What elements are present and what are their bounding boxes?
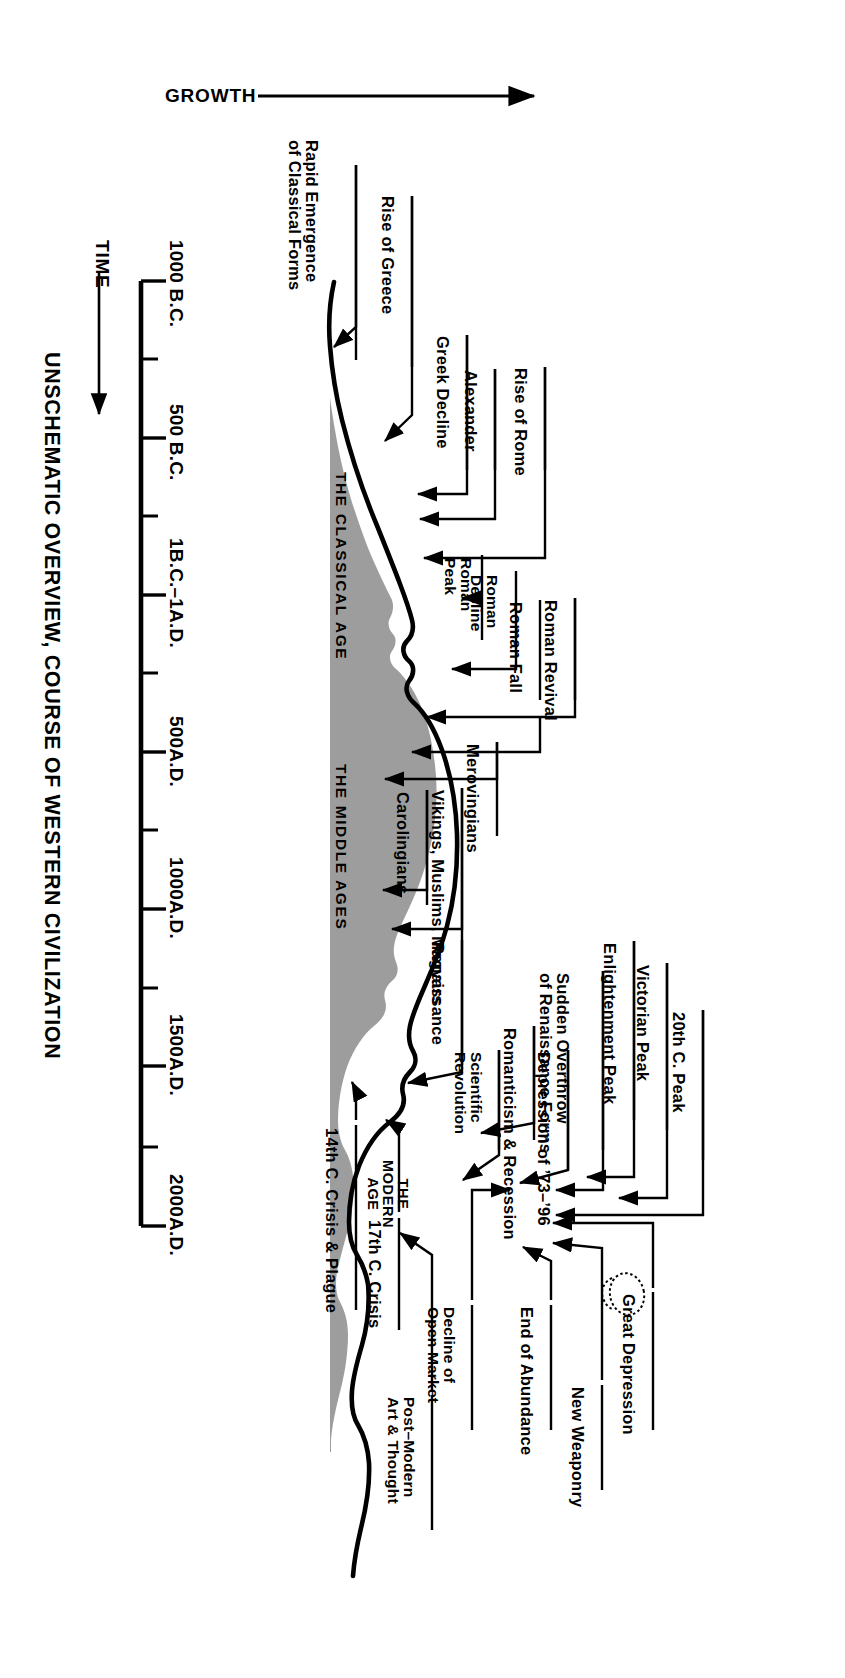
time-axis-label: TIME: [93, 240, 112, 289]
annotation-rise-of-rome: Rise of Rome: [512, 368, 529, 476]
era-label-classical-age: THE CLASSICAL AGE: [333, 472, 349, 660]
axis-tick-label-2000ad: 2000A.D.: [167, 1174, 186, 1256]
annotation-roman-revival: Roman Revival: [542, 600, 559, 721]
era-label-middle-ages: THE MIDDLE AGES: [333, 764, 349, 930]
annotation-end-of-abundance: End of Abundance: [518, 1307, 535, 1455]
annotation-great-depression: Great Depression: [620, 1294, 637, 1435]
annotation-merovingians: Merovingians: [464, 744, 481, 853]
annotation-rapid-emergence: Rapid Emergence of Classical Forms: [286, 140, 320, 290]
annotation-romanticism-recession: Romanticism & Recession: [501, 1028, 518, 1240]
growth-axis-label: GROWTH: [165, 86, 256, 105]
axis-tick-label-500ad: 500A.D.: [167, 716, 186, 787]
annotation-20th-c-peak: 20th C. Peak: [670, 1012, 687, 1113]
annotation-roman-decline: Roman Decline: [468, 575, 500, 632]
annotation-sudden-overthrow: Sudden Overthrow of Renaissance Forms: [537, 973, 571, 1153]
annotation-alexander: Alexander: [462, 370, 479, 452]
annotation-decline-of-open-market: Decline of Open Market: [425, 1307, 457, 1403]
annotation-carolingians: Carolingians: [394, 792, 411, 894]
axis-tick-label-1000bc: 1000 B.C.: [167, 240, 186, 327]
axis-tick-label-1500ad: 1500A.D.: [167, 1014, 186, 1096]
annotation-enlightenment-peak: Enlightenment Peak: [601, 943, 618, 1104]
annotation-roman-fall: Roman Fall: [507, 602, 524, 693]
axis-tick-label-1000ad: 1000A.D.: [167, 857, 186, 939]
annotation-scientific-revolution: Scientific Revolution: [452, 1052, 484, 1134]
figure-canvas: UNSCHEMATIC OVERVIEW, COURSE OF WESTERN …: [0, 0, 845, 1678]
annotation-14th-c-crisis-plague: 14th C. Crisis & Plague: [323, 1128, 340, 1313]
annotation-post-modern-art-thought: Post–Modern Art & Thought: [385, 1397, 417, 1504]
annotation-greek-decline: Greek Decline: [434, 336, 451, 449]
annotation-victorian-peak: Victorian Peak: [634, 965, 651, 1081]
civilization-growth-diagram: [0, 0, 845, 1678]
annotation-renaissance: Renaissance: [429, 942, 446, 1045]
axis-tick-label-1bc1ad: 1B.C.–1A.D.: [167, 538, 186, 648]
era-label-modern-age: THE MODERN AGE: [366, 1160, 410, 1228]
annotation-17th-c-crisis: 17th C. Crisis: [366, 1220, 383, 1328]
axis-tick-label-500bc: 500 B.C.: [167, 404, 186, 481]
annotation-new-weaponry: New Weaponry: [569, 1387, 586, 1507]
page-title: UNSCHEMATIC OVERVIEW, COURSE OF WESTERN …: [40, 352, 62, 1059]
time-axis-scale: [141, 281, 166, 1226]
annotation-rise-of-greece: Rise of Greece: [379, 196, 396, 314]
